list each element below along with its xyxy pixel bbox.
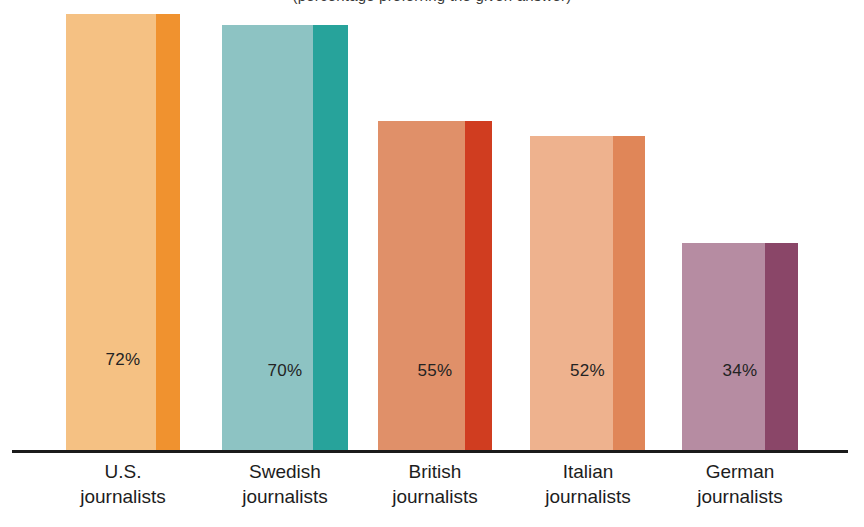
axis-baseline [12, 450, 848, 453]
bar-german-value: 34% [682, 361, 829, 381]
category-label-british: British journalists [358, 459, 512, 509]
bar-british-side [465, 121, 492, 452]
bar-us-side [156, 14, 180, 452]
category-label-german: German journalists [663, 459, 817, 509]
bar-german: 34% [682, 243, 798, 452]
category-label-german-line2: journalists [663, 484, 817, 509]
category-label-british-line1: British [358, 459, 512, 484]
category-label-italian-line2: journalists [511, 484, 665, 509]
bar-german-side [765, 243, 798, 452]
bar-italian-value: 52% [530, 361, 675, 381]
category-label-italian: Italian journalists [511, 459, 665, 509]
bar-italian-side [613, 136, 645, 452]
category-label-us-line1: U.S. [46, 459, 200, 484]
bar-us: 72% [66, 14, 180, 452]
bar-chart: (percentage preferring the given answer)… [0, 0, 864, 527]
category-label-italian-line1: Italian [511, 459, 665, 484]
bar-swedish: 70% [222, 25, 348, 452]
bar-swedish-side [313, 25, 348, 452]
category-label-german-line1: German [663, 459, 817, 484]
bar-italian: 52% [530, 136, 645, 452]
category-labels: U.S. journalists Swedish journalists Bri… [0, 459, 864, 527]
category-label-british-line2: journalists [358, 484, 512, 509]
category-label-swedish: Swedish journalists [208, 459, 362, 509]
category-label-us-line2: journalists [46, 484, 200, 509]
bar-british: 55% [378, 121, 492, 452]
category-label-swedish-line2: journalists [208, 484, 362, 509]
bar-swedish-value: 70% [222, 361, 380, 381]
bar-british-value: 55% [378, 361, 517, 381]
category-label-us: U.S. journalists [46, 459, 200, 509]
bar-us-value: 72% [66, 350, 202, 370]
plot-area: 72% 70% 55% 52% 34% [0, 0, 864, 452]
category-label-swedish-line1: Swedish [208, 459, 362, 484]
